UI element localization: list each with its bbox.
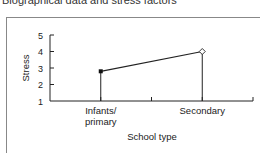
- y-tick-label: 3: [38, 64, 43, 74]
- y-axis-title: Stress: [20, 54, 31, 81]
- y-tick-label: 2: [38, 80, 43, 90]
- x-ticks: [101, 97, 253, 101]
- series: [99, 49, 206, 102]
- y-tick-label: 4: [38, 47, 43, 57]
- data-point-marker: [199, 49, 205, 55]
- data-line: [101, 52, 203, 72]
- x-axis-title: School type: [127, 131, 177, 142]
- y-tick-label: 5: [38, 31, 43, 41]
- x-category-label: Secondary: [180, 105, 226, 116]
- x-category-label: primary: [85, 116, 117, 127]
- data-point-marker: [99, 69, 103, 73]
- x-category-label: Infants/: [85, 105, 117, 116]
- line-chart: 12345 Stress School type Infants/primary…: [0, 0, 260, 153]
- x-category-labels: Infants/primarySecondary: [85, 105, 225, 127]
- y-tick-label: 1: [38, 97, 43, 107]
- y-ticks: 12345: [38, 31, 54, 107]
